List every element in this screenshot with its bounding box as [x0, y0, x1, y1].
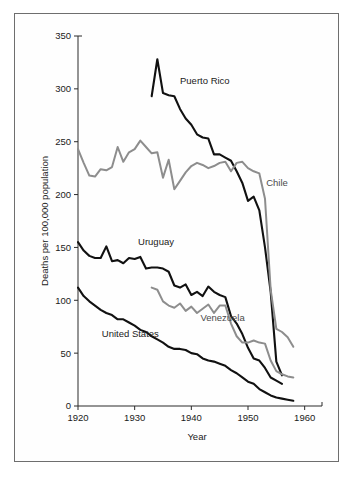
series-label-puerto-rico: Puerto Rico — [180, 75, 230, 86]
series-line-chile — [78, 141, 293, 347]
y-tick-label: 150 — [55, 242, 71, 253]
y-tick-label: 0 — [66, 400, 71, 411]
x-tick-label: 1920 — [67, 412, 88, 423]
line-chart-plot: 0501001502002503003501920193019401950196… — [0, 0, 355, 477]
y-tick-label: 100 — [55, 295, 71, 306]
y-tick-label: 50 — [60, 348, 71, 359]
x-tick-label: 1930 — [124, 412, 145, 423]
y-tick-label: 300 — [55, 83, 71, 94]
y-tick-label: 200 — [55, 189, 71, 200]
series-label-uruguay: Uruguay — [138, 236, 174, 247]
y-tick-label: 350 — [55, 30, 71, 41]
x-tick-label: 1960 — [294, 412, 315, 423]
y-tick-label: 250 — [55, 136, 71, 147]
y-axis-title: Deaths per 100,000 population — [39, 156, 50, 286]
series-line-puerto-rico — [152, 59, 282, 375]
series-line-united-states — [78, 288, 293, 401]
chart-figure: 0501001502002503003501920193019401950196… — [0, 0, 355, 477]
x-tick-label: 1940 — [181, 412, 202, 423]
x-tick-label: 1950 — [237, 412, 258, 423]
series-label-chile: Chile — [266, 177, 288, 188]
series-label-united-states: United States — [102, 328, 159, 339]
chart-axes — [78, 36, 322, 406]
x-axis-title: Year — [187, 431, 206, 442]
series-label-venezuela: Venezuela — [200, 312, 245, 323]
